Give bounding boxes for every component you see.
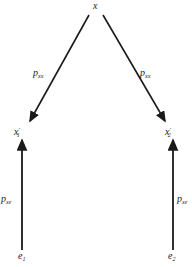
edge-label-e1-x1-subscript: xe bbox=[6, 199, 11, 205]
node-x2-subscript: 2 bbox=[168, 132, 171, 138]
node-x1: x′1 bbox=[14, 125, 20, 140]
node-e2: e2 bbox=[168, 251, 175, 264]
node-x2: x′2 bbox=[165, 125, 171, 140]
edge-label-x-x1: pxx bbox=[33, 68, 43, 81]
path-diagram-canvas bbox=[0, 0, 192, 267]
node-x: x bbox=[93, 1, 97, 11]
node-e1: e1 bbox=[18, 251, 25, 264]
edge-label-x-x1-subscript: xx bbox=[38, 73, 43, 79]
edge-label-x-x2-subscript: xx bbox=[145, 73, 150, 79]
edge-x-to-x2-arrow bbox=[103, 15, 165, 121]
node-x1-subscript: 1 bbox=[17, 132, 20, 138]
edge-label-e1-x1: pxe bbox=[1, 194, 11, 207]
node-e2-subscript: 2 bbox=[172, 256, 175, 262]
node-x-label: x bbox=[93, 0, 97, 11]
edge-label-e2-x2-subscript: xe bbox=[182, 199, 187, 205]
edge-label-x-x2: pxx bbox=[140, 68, 150, 81]
edge-label-e2-x2: pxe bbox=[177, 194, 187, 207]
node-e1-subscript: 1 bbox=[22, 256, 25, 262]
